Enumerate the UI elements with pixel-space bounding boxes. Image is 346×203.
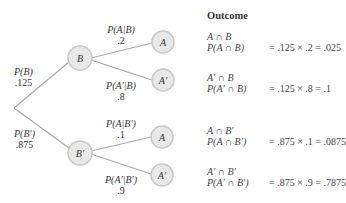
outcome-Ap-and-B: A′ ∩ B P(A′ ∩ B)= .125 × .8 = .1 — [207, 72, 331, 94]
node-Bp-label: B′ — [76, 148, 85, 159]
outcome-event: A ∩ B — [207, 31, 341, 42]
outcome-calc: = .125 × .2 = .025 — [269, 42, 341, 53]
prob-value: .125 — [14, 77, 33, 88]
prob-value: .1 — [99, 129, 143, 140]
node-A-bottom-label: A — [158, 132, 166, 143]
outcome-prob-label: P(A′ ∩ B) — [207, 83, 269, 94]
branch-label-Ap-given-B: P(A′|B) .8 — [99, 80, 143, 102]
branch-B-Ap — [91, 60, 152, 80]
outcome-calc: = .125 × .8 = .1 — [269, 83, 331, 94]
outcome-prob-label: P(A′ ∩ B′) — [207, 177, 269, 188]
outcome-prob-label: P(A ∩ B) — [207, 42, 269, 53]
branch-label-A-given-B: P(A|B) .2 — [101, 24, 141, 46]
prob-value: .9 — [97, 185, 145, 196]
node-A-top-label: A — [159, 37, 167, 48]
outcome-A-and-B: A ∩ B P(A ∩ B)= .125 × .2 = .025 — [207, 31, 341, 53]
branch-Bp-Ap — [91, 154, 151, 174]
outcome-header: Outcome — [207, 10, 248, 21]
prob-label: P(A|B′) — [99, 118, 143, 129]
branch-label-Ap-given-Bp: P(A′|B′) .9 — [97, 174, 145, 196]
outcome-Ap-and-Bp: A′ ∩ B′ P(A′ ∩ B′)= .875 × .9 = .7875 — [207, 166, 346, 188]
outcome-event: A′ ∩ B′ — [207, 166, 346, 177]
outcome-prob-label: P(A ∩ B′) — [207, 136, 269, 147]
prob-value: .8 — [99, 91, 143, 102]
branch-label-A-given-Bp: P(A|B′) .1 — [99, 118, 143, 140]
node-Ap-bottom-label: A′ — [157, 170, 167, 181]
prob-label: P(B′) — [14, 128, 35, 139]
outcome-event: A′ ∩ B — [207, 72, 331, 83]
prob-label: P(A′|B′) — [97, 174, 145, 185]
prob-value: .875 — [14, 139, 35, 150]
prob-label: P(A|B) — [101, 24, 141, 35]
node-Ap-top-label: A′ — [158, 75, 168, 86]
prob-value: .2 — [101, 35, 141, 46]
node-B-label: B — [77, 53, 83, 64]
outcome-calc: = .875 × .1 = .0875 — [269, 136, 346, 147]
outcome-A-and-Bp: A ∩ B′ P(A ∩ B′)= .875 × .1 = .0875 — [207, 125, 346, 147]
outcome-calc: = .875 × .9 = .7875 — [269, 177, 346, 188]
outcome-event: A ∩ B′ — [207, 125, 346, 136]
prob-label: P(A′|B) — [99, 80, 143, 91]
prob-label: P(B) — [14, 66, 33, 77]
branch-label-B: P(B) .125 — [14, 66, 33, 88]
branch-label-Bp: P(B′) .875 — [14, 128, 35, 150]
